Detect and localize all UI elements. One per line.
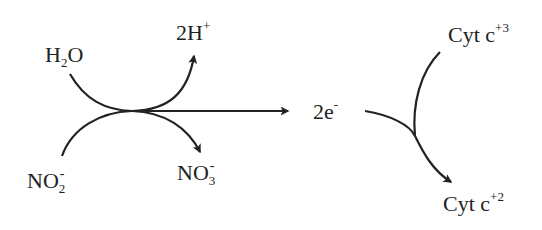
nitrate-base: NO [177, 160, 209, 185]
nitrate-subscript: 3 [209, 174, 216, 187]
electrons-charge: - [334, 97, 338, 112]
nitrate-charge: - [210, 159, 215, 173]
electrons-label: 2e- [313, 101, 338, 123]
h2o-subscript: 2 [61, 55, 68, 70]
h2o-label: H2O [45, 44, 83, 66]
h2o-tail: O [67, 42, 83, 67]
electrons-base: 2e [313, 99, 334, 124]
nitrite-label: NO-2 [27, 170, 68, 192]
to-2h-arrow [132, 56, 194, 111]
cytc2-charge: +2 [490, 189, 504, 204]
cytc-oxidized-label: Cyt c+3 [448, 24, 509, 46]
protons-superscript: + [203, 18, 210, 33]
reaction-diagram: H2O 2H+ NO-2 NO-3 2e- Cyt c+3 Cyt c+2 [0, 0, 542, 230]
cytc3-charge: +3 [495, 20, 509, 35]
nitrite-base: NO [27, 168, 59, 193]
nitrite-subscript: 2 [59, 182, 66, 195]
h2o-base: H [45, 42, 61, 67]
h2o-in-curve [70, 74, 132, 111]
no2-in-curve [62, 111, 132, 156]
cytc3-base: Cyt c [448, 22, 495, 47]
protons-base: 2H [176, 20, 203, 45]
cytc-reduced-label: Cyt c+2 [443, 193, 504, 215]
to-no3-arrow [132, 111, 200, 152]
nitrite-charge: - [60, 167, 65, 181]
electrons-to-cytc2-arrow [365, 111, 451, 182]
cytc3-down-curve [414, 52, 440, 136]
protons-label: 2H+ [176, 22, 210, 44]
cytc2-base: Cyt c [443, 191, 490, 216]
nitrate-label: NO-3 [177, 162, 218, 184]
